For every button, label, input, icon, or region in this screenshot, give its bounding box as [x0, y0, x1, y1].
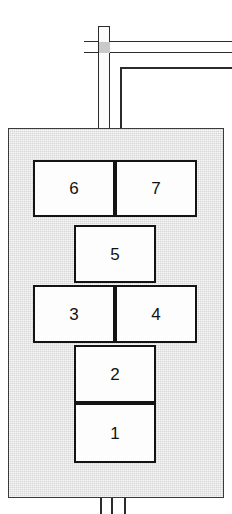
cell-4-label: 4	[151, 306, 160, 323]
diagram-root: 6 7 5 3 4 2 1	[0, 0, 232, 514]
branch-line-vertical	[120, 67, 122, 129]
cell-7[interactable]: 7	[115, 160, 197, 217]
cell-2-label: 2	[110, 366, 119, 383]
cell-6[interactable]: 6	[33, 160, 115, 217]
cell-3[interactable]: 3	[33, 285, 115, 343]
cell-2[interactable]: 2	[74, 345, 156, 403]
bottom-outlet-line-middle	[111, 498, 113, 514]
cell-1-label: 1	[110, 425, 119, 442]
cell-5-label: 5	[110, 246, 119, 263]
cell-5[interactable]: 5	[74, 225, 156, 283]
pipe-junction-icon	[99, 42, 110, 53]
cell-1[interactable]: 1	[74, 403, 156, 463]
cell-3-label: 3	[69, 306, 78, 323]
cell-4[interactable]: 4	[115, 285, 197, 343]
cell-6-label: 6	[69, 180, 78, 197]
bottom-outlet-line-left	[100, 498, 102, 514]
riser-cap-icon	[98, 26, 110, 43]
branch-line-horizontal	[120, 67, 232, 69]
cell-7-label: 7	[151, 180, 160, 197]
bottom-outlet-line-right	[124, 498, 126, 514]
